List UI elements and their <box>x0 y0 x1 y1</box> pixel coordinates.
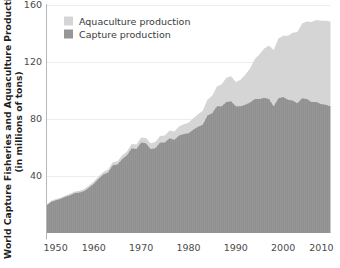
stacked-area-chart: 4080120160 1950196019701980199020002010 … <box>0 0 340 268</box>
legend-swatch-aquaculture-icon <box>64 17 73 26</box>
y-tick-label-80: 80 <box>30 113 42 124</box>
legend-label-aquaculture: Aquaculture production <box>79 16 190 27</box>
y-tick-label-40: 40 <box>30 170 42 181</box>
x-tick-label-1980: 1980 <box>176 242 200 253</box>
y-axis-title-line-2: (in millions of tons) <box>13 71 24 172</box>
y-tick-label-120: 120 <box>24 56 42 67</box>
x-tick-label-1950: 1950 <box>44 242 68 253</box>
x-tick-label-1960: 1960 <box>82 242 106 253</box>
legend-label-capture: Capture production <box>79 29 171 40</box>
x-tick-label-1990: 1990 <box>224 242 248 253</box>
legend-swatch-capture-icon <box>64 30 73 39</box>
y-tick-label-160: 160 <box>24 0 42 10</box>
chart-figure: 4080120160 1950196019701980199020002010 … <box>0 0 340 268</box>
x-tick-label-2000: 2000 <box>271 242 295 253</box>
x-axis-tick-labels: 1950196019701980199020002010 <box>44 242 334 253</box>
y-axis-title-line-1: World Capture Fisheries and Aquaculture … <box>2 0 13 259</box>
x-tick-label-1970: 1970 <box>129 242 153 253</box>
x-tick-label-2010: 2010 <box>309 242 333 253</box>
